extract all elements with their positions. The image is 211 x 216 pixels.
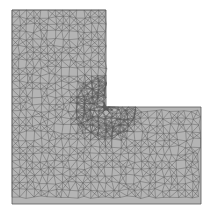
l-shaped-triangular-mesh	[0, 0, 211, 216]
mesh-figure	[0, 0, 211, 216]
